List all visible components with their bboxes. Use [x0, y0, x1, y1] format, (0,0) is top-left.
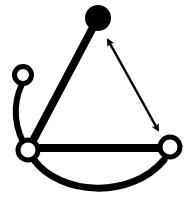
network-diagram — [0, 0, 196, 210]
edge-bottom-arc — [34, 160, 164, 188]
node-top-filled — [85, 5, 111, 31]
node-bottom-right — [160, 137, 180, 157]
edge-top-to-bottom-left — [28, 18, 98, 150]
node-small-left — [15, 67, 32, 84]
node-bottom-left — [18, 140, 38, 160]
edge-double-headed-arrow — [108, 40, 158, 130]
